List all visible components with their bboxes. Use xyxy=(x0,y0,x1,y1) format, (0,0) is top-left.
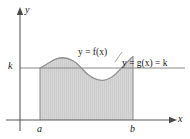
a-tick-label: a xyxy=(37,124,42,134)
label-leader-line xyxy=(115,52,122,62)
y-axis-arrow-icon xyxy=(17,7,23,15)
line-g-label: y = g(x) = k xyxy=(122,59,168,69)
y-axis-label: y xyxy=(25,5,29,15)
x-axis-arrow-icon xyxy=(169,117,177,123)
b-tick-label: b xyxy=(130,124,135,134)
figure-canvas xyxy=(0,0,190,139)
k-tick-label: k xyxy=(8,61,12,71)
curve-f-label: y = f(x) xyxy=(78,48,107,58)
math-figure: y x k a b y = f(x) y = g(x) = k xyxy=(0,0,190,139)
x-axis-label: x xyxy=(178,114,182,124)
shaded-area-region xyxy=(40,57,133,121)
